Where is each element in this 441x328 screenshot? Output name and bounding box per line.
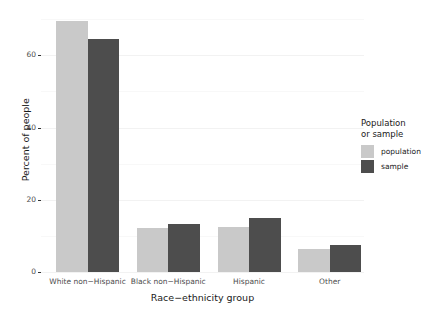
bar [137,228,169,272]
legend-label: population [381,148,421,156]
legend-swatch [361,160,374,173]
x-axis-title: Race−ethnicity group [41,293,364,303]
bar-series-container [41,12,364,272]
legend-entries: populationsample [361,144,439,173]
y-axis-title: Percent of people [21,65,31,215]
bar [218,227,250,272]
bar [88,39,120,272]
y-tick-label: 0 [31,268,36,276]
y-tick-mark [38,200,41,201]
bar [298,249,330,272]
y-tick-mark [38,272,41,273]
legend-item: sample [361,159,439,173]
y-tick-label: 60 [26,52,36,60]
legend-label: sample [381,163,408,171]
legend-swatch [361,145,374,158]
y-tick-mark [38,55,41,56]
legend-item: population [361,144,439,158]
bar [330,245,362,272]
bar [56,21,88,272]
chart-figure: 0204060 White non−HispanicBlack non−Hisp… [0,0,441,328]
x-tick-label: Other [270,278,390,286]
y-tick-mark [38,128,41,129]
bar [249,218,281,272]
bar [168,224,200,272]
gridline-major [41,272,364,273]
plot-panel [41,12,364,272]
legend-title: Population or sample [361,118,439,139]
legend: Population or sample populationsample [361,118,439,174]
